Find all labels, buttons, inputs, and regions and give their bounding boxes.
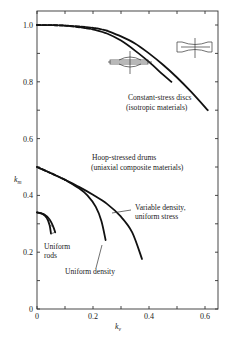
annotation-discs-line1: Constant-stress discs xyxy=(128,93,192,102)
chart: 00.20.40.600.20.40.60.81.0 km kv Constan… xyxy=(0,0,236,344)
y-axis-label: km xyxy=(14,175,22,185)
y-tick-label: 0.6 xyxy=(23,135,33,144)
annotation-uniform-rods-line1: Uniform xyxy=(44,242,70,251)
curve-uniform-rods-b xyxy=(37,212,55,232)
curve-uniform-rods-a xyxy=(37,212,51,233)
annotation-uniform-rods: Uniform rods xyxy=(44,242,70,260)
annotation-drums-line2: (uniaxial composite materials) xyxy=(91,163,184,172)
x-axis-label-sub: v xyxy=(119,326,122,332)
x-tick-label: 0.6 xyxy=(200,312,210,321)
drum-profile-icon xyxy=(177,38,212,58)
annotation-drums: Hoop-stressed drums (uniaxial composite … xyxy=(91,153,184,172)
curve-constant-stress-disc-inner xyxy=(93,29,171,82)
annotation-uniform-rods-line2: rods xyxy=(44,251,57,260)
annotation-drums-line1: Hoop-stressed drums xyxy=(92,153,156,162)
curve-variable-density-uniform-stress xyxy=(65,180,142,259)
curve-uniform-density xyxy=(65,180,106,240)
annotation-variable-density-line2: uniform stress xyxy=(135,212,178,221)
y-tick-label: 0.8 xyxy=(23,78,33,87)
x-tick-label: 0 xyxy=(35,312,39,321)
y-tick-label: 0 xyxy=(29,305,33,314)
annotation-variable-density-line1: Variable density, xyxy=(135,203,186,212)
disc-profile-icon xyxy=(108,51,152,74)
y-axis-label-sub: m xyxy=(18,179,22,185)
x-tick-label: 0.2 xyxy=(88,312,98,321)
y-tick-label: 0.4 xyxy=(23,191,33,200)
leader-line-uniform-density xyxy=(96,245,102,268)
curve-variable-density-uniform-stress-dashed xyxy=(37,167,65,180)
annotation-uniform-density-line1: Uniform density xyxy=(65,267,115,276)
y-tick-label: 0.2 xyxy=(23,248,33,257)
x-tick-label: 0.4 xyxy=(144,312,154,321)
x-axis-label: kv xyxy=(115,322,122,332)
annotation-discs-line2: (isotropic materials) xyxy=(126,103,188,112)
y-tick-label: 1.0 xyxy=(23,21,33,30)
annotation-discs: Constant-stress discs (isotropic materia… xyxy=(126,93,192,112)
annotation-uniform-density: Uniform density xyxy=(65,245,115,276)
